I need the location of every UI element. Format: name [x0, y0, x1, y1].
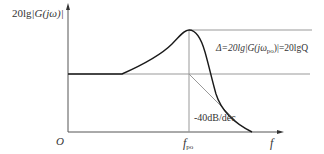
y-axis-label-expr: |G(jω)| [32, 7, 64, 19]
y-axis-label: 20lg|G(jω)| [12, 8, 64, 19]
y-axis-arrow-icon [66, 3, 70, 10]
y-axis-label-prefix: 20lg [12, 7, 32, 19]
origin-label: O [56, 136, 64, 147]
slope-label: -40dB/dec [194, 113, 236, 123]
x-axis-label: f [270, 137, 273, 149]
delta-annotation: Δ=20lg|G(jωpo)|=20lgQ [216, 44, 308, 55]
peak-frequency-sub: po [186, 143, 193, 151]
x-axis-arrow-icon [277, 130, 284, 134]
bode-diagram: 20lg|G(jω)| O f fpo -40dB/dec Δ=20lg|G(j… [0, 0, 324, 154]
delta-annotation-sub: po [267, 47, 274, 55]
delta-annotation-start: Δ=20lg|G(jω [216, 43, 267, 53]
delta-annotation-end: )|=20lgQ [274, 43, 308, 53]
peak-frequency-label: fpo [183, 137, 193, 151]
bode-plot-svg [0, 0, 324, 154]
